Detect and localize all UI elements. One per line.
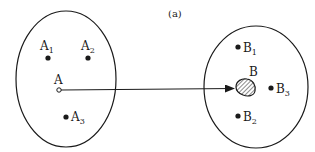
image-region-b	[236, 79, 255, 96]
mapping-diagram: (a) A1 A2 A A3 B1 B2 B3 B	[0, 0, 315, 152]
point-a3-label: A3	[70, 110, 85, 126]
point-a-open	[57, 88, 61, 92]
mapping-arrow	[61, 89, 234, 91]
point-b1-label: B1	[243, 41, 257, 57]
point-a3-dot	[63, 114, 68, 119]
set-a: A1 A2 A A3	[16, 11, 116, 147]
set-b-ellipse	[204, 26, 308, 148]
point-a1-label: A1	[39, 39, 54, 55]
point-b3-label: B3	[276, 82, 290, 98]
point-a2-label: A2	[80, 39, 95, 55]
point-b2-dot	[235, 113, 240, 118]
set-a-ellipse	[16, 11, 116, 147]
point-a-label: A	[53, 73, 63, 87]
region-b-label: B	[249, 65, 258, 79]
point-a2-dot	[85, 55, 90, 60]
caption-label: (a)	[168, 8, 182, 19]
point-b1-dot	[235, 44, 240, 49]
point-b3-dot	[268, 85, 273, 90]
point-b2-label: B2	[243, 110, 257, 126]
point-a1-dot	[45, 55, 50, 60]
set-b: B1 B2 B3 B	[204, 26, 308, 148]
